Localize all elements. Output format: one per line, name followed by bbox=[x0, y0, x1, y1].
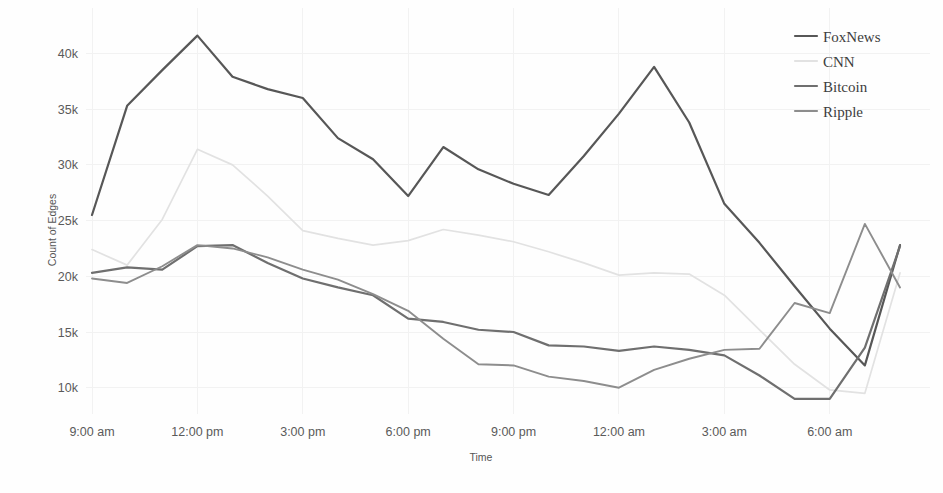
x-tick-label: 9:00 am bbox=[69, 425, 114, 439]
x-tick-label: 3:00 am bbox=[702, 425, 747, 439]
y-tick-label: 30k bbox=[58, 158, 79, 172]
legend-label-foxnews[interactable]: FoxNews bbox=[823, 29, 881, 45]
x-tick-label: 3:00 pm bbox=[280, 425, 325, 439]
x-tick-label: 6:00 am bbox=[807, 425, 852, 439]
legend: FoxNewsCNNBitcoinRipple bbox=[795, 29, 881, 120]
x-tick-label: 12:00 pm bbox=[171, 425, 223, 439]
y-tick-label: 20k bbox=[58, 270, 79, 284]
series-line-foxnews bbox=[92, 36, 900, 366]
y-tick-label: 15k bbox=[58, 326, 79, 340]
series-line-ripple bbox=[92, 224, 900, 388]
line-chart: 10k15k20k25k30k35k40k 9:00 am12:00 pm3:0… bbox=[0, 0, 943, 493]
x-tick-label: 9:00 pm bbox=[491, 425, 536, 439]
series-lines bbox=[92, 36, 900, 399]
x-tick-label: 12:00 am bbox=[593, 425, 645, 439]
y-tick-label: 35k bbox=[58, 103, 79, 117]
chart-canvas: 10k15k20k25k30k35k40k 9:00 am12:00 pm3:0… bbox=[0, 0, 943, 493]
x-tick-label: 6:00 pm bbox=[386, 425, 431, 439]
y-axis-title: Count of Edges bbox=[46, 194, 58, 266]
legend-label-cnn[interactable]: CNN bbox=[823, 54, 855, 70]
gridlines bbox=[86, 8, 930, 414]
series-line-cnn bbox=[92, 149, 900, 393]
x-axis-title: Time bbox=[470, 451, 493, 463]
y-tick-label: 10k bbox=[58, 381, 79, 395]
legend-label-bitcoin[interactable]: Bitcoin bbox=[823, 79, 868, 95]
legend-label-ripple[interactable]: Ripple bbox=[823, 104, 863, 120]
y-tick-label: 40k bbox=[58, 47, 79, 61]
y-axis-tick-labels: 10k15k20k25k30k35k40k bbox=[58, 47, 79, 395]
x-axis-tick-labels: 9:00 am12:00 pm3:00 pm6:00 pm9:00 pm12:0… bbox=[69, 425, 852, 439]
y-tick-label: 25k bbox=[58, 214, 79, 228]
